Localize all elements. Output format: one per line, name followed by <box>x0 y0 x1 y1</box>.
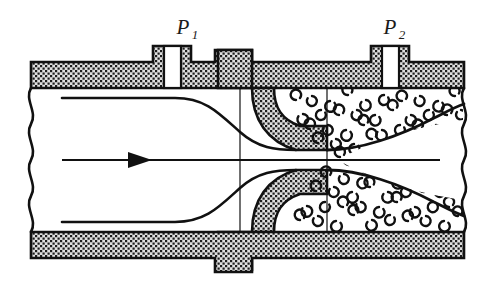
pressure-tap-downstream-bore <box>382 46 399 88</box>
figure-body: P 1 P 2 <box>29 15 466 272</box>
label-downstream-pressure: P 2 <box>383 15 406 42</box>
label-p2-symbol: P <box>383 15 397 39</box>
label-p1-symbol: P <box>176 15 190 39</box>
lower-wall-body <box>31 232 464 272</box>
flow-nozzle-figure: P 1 P 2 <box>0 0 495 285</box>
pressure-tap-upstream-bore <box>164 46 181 88</box>
label-p1-subscript: 1 <box>192 27 199 42</box>
flow-direction-arrow <box>128 152 152 168</box>
label-p2-subscript: 2 <box>399 27 406 42</box>
wavy-break-left <box>29 88 33 232</box>
diagram-canvas: P 1 P 2 <box>0 0 495 285</box>
pipe-wall-lower <box>31 232 464 272</box>
label-upstream-pressure: P 1 <box>176 15 199 42</box>
